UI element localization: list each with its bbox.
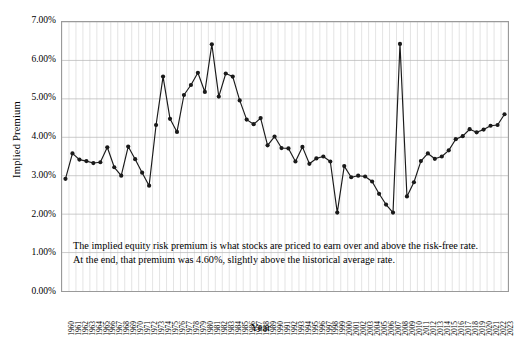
chart-annotation: The implied equity risk premium is what … — [73, 239, 493, 266]
x-axis-title: Year — [0, 322, 522, 333]
y-tick-label: 4.00% — [10, 132, 56, 142]
annotation-line-2: At the end, that premium was 4.60%, slig… — [73, 253, 493, 267]
x-axis-tick-labels: 1960196119621963196419651966196719681969… — [61, 294, 509, 324]
y-tick-label: 2.00% — [10, 210, 56, 220]
y-tick-label: 7.00% — [10, 16, 56, 26]
annotation-line-1: The implied equity risk premium is what … — [73, 239, 493, 253]
y-tick-label: 3.00% — [10, 171, 56, 181]
y-tick-label: 5.00% — [10, 93, 56, 103]
y-tick-label: 1.00% — [10, 248, 56, 258]
y-tick-label: 6.00% — [10, 55, 56, 65]
y-tick-label: 0.00% — [10, 287, 56, 297]
implied-premium-chart: Implied Premium 7.00%6.00%5.00%4.00%3.00… — [0, 0, 522, 343]
